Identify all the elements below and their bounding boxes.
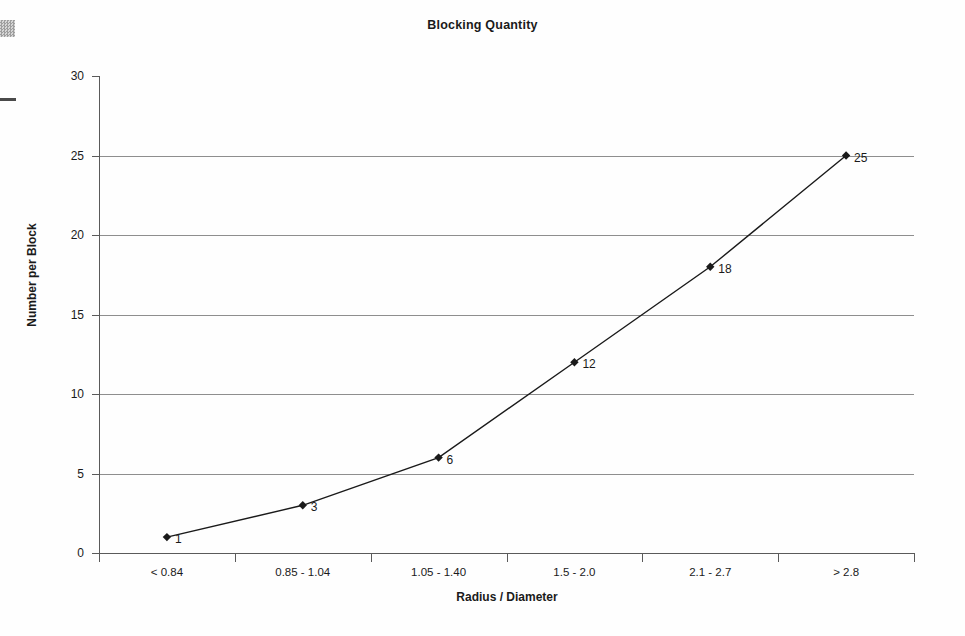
data-point-label-1: 3 bbox=[311, 501, 318, 513]
x-tick-label-4: 2.1 - 2.7 bbox=[642, 566, 778, 578]
data-point-label-0: 1 bbox=[175, 533, 182, 545]
x-axis-title: Radius / Diameter bbox=[99, 590, 915, 604]
x-tick-3 bbox=[507, 554, 508, 562]
x-tick-label-3: 1.5 - 2.0 bbox=[506, 566, 642, 578]
series-line bbox=[99, 76, 915, 554]
y-axis-title: Number per Block bbox=[25, 195, 39, 355]
scan-artifact-dash-icon bbox=[0, 98, 16, 101]
data-point-label-4: 18 bbox=[718, 263, 731, 275]
y-tick-label-0: 0 bbox=[28, 547, 84, 559]
x-tick-label-1: 0.85 - 1.04 bbox=[235, 566, 371, 578]
data-point-marker-1 bbox=[299, 501, 307, 509]
y-tick-label-10: 10 bbox=[28, 388, 84, 400]
x-tick-0 bbox=[99, 554, 100, 562]
data-point-marker-2 bbox=[434, 453, 442, 461]
data-point-label-2: 6 bbox=[447, 454, 454, 466]
chart-title: Blocking Quantity bbox=[0, 18, 965, 32]
series-polyline bbox=[167, 156, 846, 538]
y-tick-label-30: 30 bbox=[28, 70, 84, 82]
x-tick-label-0: < 0.84 bbox=[99, 566, 235, 578]
chart-page: Blocking Quantity 051015202530 < 0.840.8… bbox=[0, 0, 965, 636]
y-tick-label-25: 25 bbox=[28, 150, 84, 162]
data-point-label-5: 25 bbox=[854, 152, 867, 164]
x-tick-6 bbox=[914, 554, 915, 562]
y-tick-label-5: 5 bbox=[28, 468, 84, 480]
x-tick-5 bbox=[778, 554, 779, 562]
x-tick-1 bbox=[235, 554, 236, 562]
data-point-label-3: 12 bbox=[582, 358, 595, 370]
x-tick-2 bbox=[371, 554, 372, 562]
x-tick-4 bbox=[642, 554, 643, 562]
data-point-marker-0 bbox=[163, 533, 171, 541]
x-tick-label-5: > 2.8 bbox=[778, 566, 914, 578]
data-point-marker-3 bbox=[570, 358, 578, 366]
x-tick-label-2: 1.05 - 1.40 bbox=[371, 566, 507, 578]
